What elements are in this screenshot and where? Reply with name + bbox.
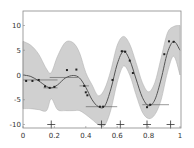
data-point: [44, 85, 46, 87]
x-tick-label: 0.4: [80, 132, 92, 140]
data-point: [49, 87, 51, 89]
data-point: [146, 106, 148, 108]
data-point: [132, 72, 134, 74]
data-point: [53, 86, 55, 88]
data-point: [38, 79, 40, 81]
data-point: [129, 60, 131, 62]
y-tick-label: -10: [10, 121, 21, 129]
plus-marker-icon: [167, 121, 175, 129]
data-point: [111, 79, 113, 81]
plus-marker-icon: [47, 121, 55, 129]
data-point: [31, 80, 33, 82]
x-tick-label: 0: [21, 132, 25, 140]
plus-markers: [47, 121, 174, 129]
plus-marker-icon: [143, 121, 151, 129]
x-tick-label: 0.8: [143, 132, 154, 140]
data-point: [173, 41, 175, 43]
x-tick-label: 1: [178, 132, 182, 140]
x-tick-label: 0.2: [49, 132, 60, 140]
x-tick-label: 0.6: [112, 132, 124, 140]
data-point: [168, 40, 170, 42]
data-point: [99, 106, 101, 108]
data-point: [25, 80, 27, 82]
data-point: [102, 106, 104, 108]
y-tick-label: 0: [17, 72, 21, 80]
y-tick-label: 5: [17, 47, 21, 55]
data-point: [66, 69, 68, 71]
confidence-band: [23, 26, 180, 127]
data-point: [124, 51, 126, 53]
data-point: [85, 91, 87, 93]
band-area: [23, 26, 180, 127]
chart: 00.20.40.60.81 1050-5-10: [0, 0, 194, 148]
data-point: [75, 69, 77, 71]
data-point: [149, 104, 151, 106]
data-point: [163, 53, 165, 55]
data-point: [121, 50, 123, 52]
data-point: [83, 85, 85, 87]
data-point: [86, 94, 88, 96]
plus-marker-icon: [116, 121, 124, 129]
y-tick-label: 10: [12, 22, 21, 30]
y-tick-label: -5: [14, 96, 21, 104]
